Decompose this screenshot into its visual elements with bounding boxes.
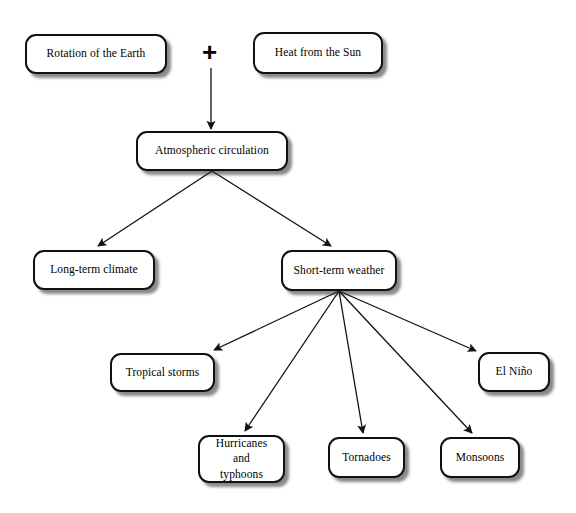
node-hurricanes[interactable]: Hurricanes and typhoons (198, 435, 285, 483)
connector-atmospheric-to-shortterm (212, 171, 331, 246)
node-label-tornadoes: Tornadoes (342, 450, 391, 466)
node-tropical[interactable]: Tropical storms (110, 353, 215, 392)
node-label-rotation: Rotation of the Earth (47, 46, 146, 62)
node-atmospheric[interactable]: Atmospheric circulation (136, 131, 288, 171)
node-label-hurricanes: Hurricanes and typhoons (206, 436, 277, 483)
node-monsoons[interactable]: Monsoons (440, 437, 520, 478)
connector-shortterm-to-hurricanes (245, 291, 339, 431)
node-elnino[interactable]: El Niño (478, 352, 550, 392)
node-longterm[interactable]: Long-term climate (33, 250, 155, 290)
connector-shortterm-to-elnino (339, 291, 476, 351)
node-label-tropical: Tropical storms (126, 365, 200, 381)
plus-operator-icon: + (202, 39, 217, 65)
node-shortterm[interactable]: Short-term weather (281, 250, 397, 291)
node-label-heat: Heat from the Sun (275, 45, 361, 61)
node-label-elnino: El Niño (496, 364, 533, 380)
node-tornadoes[interactable]: Tornadoes (328, 437, 405, 478)
node-label-monsoons: Monsoons (456, 450, 505, 466)
connector-shortterm-to-tropical (214, 291, 339, 350)
node-label-longterm: Long-term climate (50, 262, 138, 278)
node-label-atmospheric: Atmospheric circulation (155, 143, 269, 159)
flowchart-canvas: + Rotation of the EarthHeat from the Sun… (0, 0, 576, 513)
node-label-shortterm: Short-term weather (294, 263, 385, 279)
node-heat[interactable]: Heat from the Sun (253, 32, 383, 74)
node-rotation[interactable]: Rotation of the Earth (25, 34, 167, 74)
connector-atmospheric-to-longterm (98, 171, 212, 246)
